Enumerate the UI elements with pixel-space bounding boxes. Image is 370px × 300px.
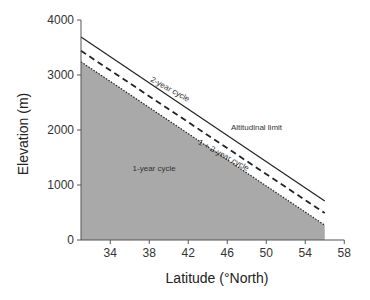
y-tick-label: 4000 — [47, 13, 74, 27]
y-tick-label: 1000 — [47, 178, 74, 192]
x-tick-label: 58 — [338, 246, 352, 260]
x-tick-label: 38 — [143, 246, 157, 260]
x-axis-title: Latitude (°North) — [166, 270, 269, 286]
x-tick-label: 34 — [104, 246, 118, 260]
plot-area: Altitudinal limit2-year cycle1 + 2-year … — [81, 37, 325, 240]
y-tick-label: 3000 — [47, 68, 74, 82]
chart: Altitudinal limit2-year cycle1 + 2-year … — [0, 0, 370, 300]
x-tick-label: 54 — [299, 246, 313, 260]
annotation-label: 2-year cycle — [149, 75, 192, 104]
x-tick-label: 42 — [182, 246, 196, 260]
annotation-label: 1-year cycle — [133, 164, 177, 173]
y-axis-title: Elevation (m) — [15, 93, 31, 175]
annotation-label: Altitudinal limit — [231, 123, 283, 132]
one-year-cycle-region — [81, 62, 325, 240]
x-tick-label: 46 — [221, 246, 235, 260]
y-tick-label: 2000 — [47, 123, 74, 137]
x-tick-label: 50 — [260, 246, 274, 260]
y-tick-label: 0 — [67, 233, 74, 247]
